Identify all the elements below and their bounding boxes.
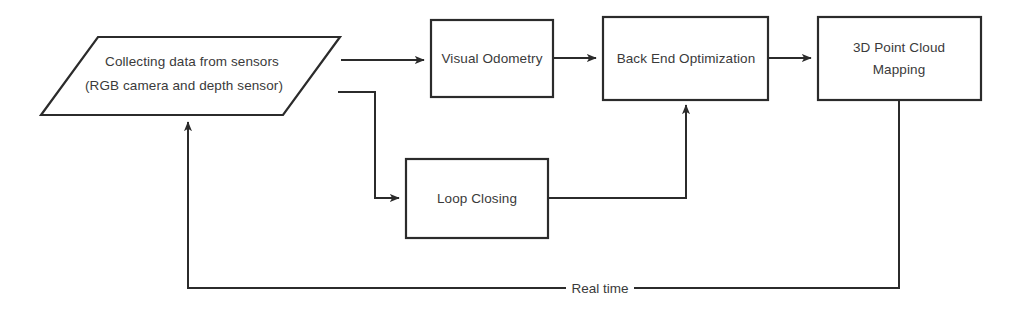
- edge-loop-closing-to-back-end: [548, 105, 686, 198]
- sensor-input-shape: [41, 37, 340, 115]
- point-cloud-mapping-label-line2: Mapping: [873, 62, 926, 77]
- back-end-optimization-label: Back End Optimization: [617, 51, 756, 66]
- sensor-input-label-line2: (RGB camera and depth sensor): [85, 78, 283, 93]
- node-loop-closing[interactable]: Loop Closing: [406, 159, 548, 238]
- node-sensor-input[interactable]: Collecting data from sensors (RGB camera…: [41, 37, 340, 115]
- edge-label-real-time-group: Real time: [566, 278, 634, 298]
- visual-odometry-label: Visual Odometry: [441, 51, 542, 66]
- sensor-input-label-line1: Collecting data from sensors: [105, 54, 279, 69]
- point-cloud-mapping-label-line1: 3D Point Cloud: [853, 40, 945, 55]
- edge-sensor-to-loop-closing: [338, 92, 399, 198]
- loop-closing-label: Loop Closing: [437, 191, 517, 206]
- node-visual-odometry[interactable]: Visual Odometry: [431, 20, 553, 97]
- point-cloud-mapping-shape: [818, 17, 981, 100]
- flowchart-canvas: Collecting data from sensors (RGB camera…: [0, 0, 1012, 310]
- node-point-cloud-mapping[interactable]: 3D Point Cloud Mapping: [818, 17, 981, 100]
- node-back-end-optimization[interactable]: Back End Optimization: [603, 17, 768, 100]
- real-time-label: Real time: [571, 281, 628, 296]
- flowchart-diagram: Collecting data from sensors (RGB camera…: [0, 0, 1012, 310]
